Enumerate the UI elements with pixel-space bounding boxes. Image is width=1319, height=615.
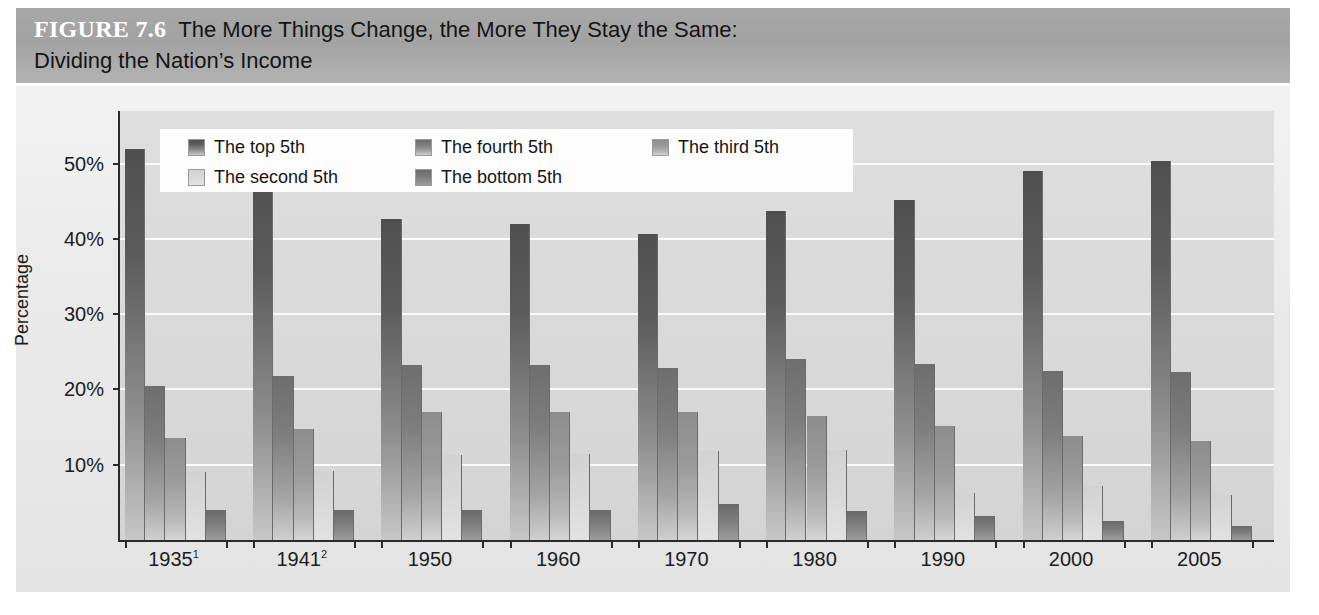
x-axis-tick: [1124, 540, 1126, 548]
figure-title-banner: FIGURE 7.6The More Things Change, the Mo…: [16, 8, 1290, 83]
x-axis-tick: [1023, 540, 1025, 548]
legend-item[interactable]: The fourth 5th: [415, 137, 553, 158]
legend-label: The top 5th: [214, 137, 305, 158]
bar: [294, 429, 314, 540]
x-axis-tick: [995, 540, 997, 548]
bar: [935, 426, 955, 540]
bar: [402, 365, 422, 540]
bar: [462, 510, 482, 540]
bar: [186, 472, 206, 540]
legend-swatch-icon: [415, 139, 432, 156]
bar: [1232, 526, 1252, 540]
bar: [125, 149, 145, 540]
bar: [1171, 372, 1191, 540]
x-axis-tick: [482, 540, 484, 548]
bar: [807, 416, 827, 540]
legend-swatch-icon: [652, 139, 669, 156]
bar: [590, 510, 610, 540]
bar: [510, 224, 530, 540]
x-axis-tick: [1151, 540, 1153, 548]
bar-group: [1023, 111, 1124, 540]
bar: [253, 171, 273, 540]
legend-item[interactable]: The top 5th: [188, 137, 305, 158]
y-axis-tick-label: 10%: [64, 453, 104, 476]
x-axis-tick: [894, 540, 896, 548]
x-axis-tick-label: 1970: [664, 548, 709, 571]
bar: [530, 365, 550, 540]
bar: [1043, 371, 1063, 540]
x-axis-tick: [226, 540, 228, 548]
bar: [638, 234, 658, 540]
bar: [658, 368, 678, 540]
bar: [955, 493, 975, 540]
legend-swatch-icon: [188, 169, 205, 186]
x-axis-footnote-marker: 1: [193, 548, 199, 560]
bar: [698, 451, 718, 540]
bar: [442, 455, 462, 540]
x-axis-tick: [125, 540, 127, 548]
bar: [915, 364, 935, 540]
x-axis-tick-label: 19412: [276, 548, 327, 571]
legend-label: The fourth 5th: [441, 137, 553, 158]
bar: [206, 510, 226, 540]
bar: [1151, 161, 1171, 540]
legend-swatch-icon: [188, 139, 205, 156]
legend-label: The bottom 5th: [441, 167, 562, 188]
bar: [1191, 441, 1211, 540]
legend-label: The third 5th: [678, 137, 779, 158]
chart-legend: The top 5thThe fourth 5thThe third 5thTh…: [160, 129, 853, 192]
figure-title-line-2: Dividing the Nation’s Income: [34, 45, 1290, 77]
y-axis-tick-label: 40%: [64, 227, 104, 250]
footnote-sliver: [18, 603, 258, 615]
x-axis-footnote-marker: 2: [321, 548, 327, 560]
x-axis-tick: [354, 540, 356, 548]
x-axis-tick: [510, 540, 512, 548]
bar: [550, 412, 570, 540]
x-axis-tick: [638, 540, 640, 548]
bar-group: [894, 111, 995, 540]
bar: [273, 376, 293, 540]
legend-label: The second 5th: [214, 167, 338, 188]
legend-item[interactable]: The second 5th: [188, 167, 338, 188]
bar: [1023, 171, 1043, 540]
y-axis-tick-label: 30%: [64, 303, 104, 326]
bar: [570, 454, 590, 540]
x-axis-tick-label: 2005: [1177, 548, 1222, 571]
bar: [145, 386, 165, 540]
bar: [827, 450, 847, 540]
x-axis-tick: [867, 540, 869, 548]
bar: [766, 211, 786, 540]
bar: [165, 438, 185, 540]
x-axis-tick-label: 1990: [921, 548, 966, 571]
x-axis-tick-label: 2000: [1049, 548, 1094, 571]
figure-container: FIGURE 7.6The More Things Change, the Mo…: [0, 0, 1319, 615]
bar: [1103, 521, 1123, 540]
x-axis-tick: [739, 540, 741, 548]
x-axis-tick-label: 1980: [792, 548, 837, 571]
legend-swatch-icon: [415, 169, 432, 186]
bar: [894, 200, 914, 540]
y-axis-tick-label: 50%: [64, 152, 104, 175]
bar: [381, 219, 401, 540]
y-axis-labels: 10%20%30%40%50%: [0, 0, 118, 545]
legend-item[interactable]: The third 5th: [652, 137, 779, 158]
bar: [1211, 495, 1231, 540]
figure-title-line-1: FIGURE 7.6The More Things Change, the Mo…: [34, 14, 1290, 45]
bar: [975, 516, 995, 540]
bar: [786, 359, 806, 540]
x-axis-tick: [253, 540, 255, 548]
x-axis-tick: [381, 540, 383, 548]
x-axis-tick: [766, 540, 768, 548]
x-axis-labels: 19351194121950196019701980199020002005: [118, 548, 1272, 582]
x-axis-tick-label: 19351: [148, 548, 199, 571]
y-axis-tick-label: 20%: [64, 378, 104, 401]
bar: [334, 510, 354, 540]
bar: [314, 471, 334, 540]
bar-group: [1151, 111, 1252, 540]
figure-title-text: The More Things Change, the More They St…: [178, 17, 737, 42]
legend-item[interactable]: The bottom 5th: [415, 167, 562, 188]
x-axis-tick-label: 1950: [408, 548, 453, 571]
bar: [1063, 436, 1083, 540]
bar: [678, 412, 698, 540]
x-axis-tick: [611, 540, 613, 548]
